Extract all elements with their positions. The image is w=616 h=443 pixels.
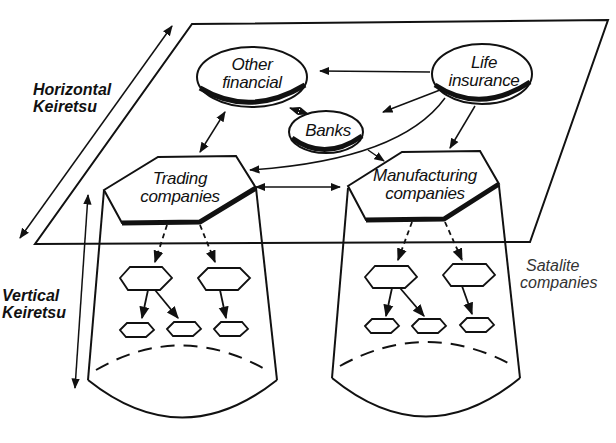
horizontal-keiretsu-label: Horizontal Keiretsu (33, 82, 111, 116)
trading-companies-label: Trading companies (140, 170, 220, 206)
horizontal-label-line2: Keiretsu (33, 99, 111, 116)
other-financial-line1: Other (222, 56, 282, 74)
trading-line1: Trading (140, 170, 220, 188)
other-financial-line2: financial (222, 74, 282, 92)
other-financial-label: Other financial (222, 56, 282, 92)
satellite-label-line2: companies (520, 275, 597, 292)
keiretsu-diagram: Horizontal Keiretsu Vertical Keiretsu Sa… (0, 0, 616, 443)
banks-label: Banks (305, 122, 351, 140)
manufacturing-line1: Manufacturing (373, 167, 477, 185)
banks-line1: Banks (305, 122, 351, 140)
vertical-label-line2: Keiretsu (2, 305, 66, 322)
horizontal-label-line1: Horizontal (33, 82, 111, 99)
vertical-keiretsu-label: Vertical Keiretsu (2, 288, 66, 322)
diagram-graphics (0, 0, 616, 443)
manufacturing-line2: companies (373, 185, 477, 203)
life-insurance-line2: insurance (448, 72, 519, 90)
trading-line2: companies (140, 188, 220, 206)
life-insurance-line1: Life (448, 54, 519, 72)
life-insurance-label: Life insurance (448, 54, 519, 90)
satellite-companies-label: Satalite companies (520, 258, 597, 292)
vertical-label-line1: Vertical (2, 288, 66, 305)
satellite-label-line1: Satalite (520, 258, 597, 275)
manufacturing-companies-label: Manufacturing companies (373, 167, 477, 203)
